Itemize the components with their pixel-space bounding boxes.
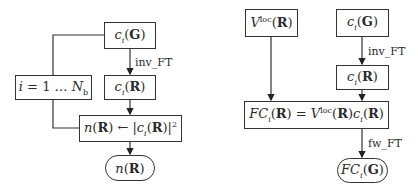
density-label: n(R) ← |ci(R)|2 [84,120,177,138]
box-ci-r-right: ci(R) [336,65,389,90]
ci-g-label-right: ci(G) [347,14,378,32]
box-ci-g-right: ci(G) [336,9,389,37]
terminal-fc-output: FCi(G) [337,158,388,183]
box-loop-index: i = 1 … Nb [15,75,92,100]
vloc-label: Vloc(R) [250,15,292,30]
ci-r-label-right: ci(R) [347,69,378,87]
density-output-label: n(R) [115,161,144,176]
edge-label-fw-ft: fw_FT [368,137,402,150]
box-ci-r-left: ci(R) [104,75,156,100]
ci-g-label: ci(G) [114,27,145,45]
box-density-update: n(R) ← |ci(R)|2 [79,115,182,142]
terminal-density-output: n(R) [105,155,155,181]
box-product: FCi(R) = Vloc(R)ci(R) [244,101,389,129]
box-ci-g-left: ci(G) [104,22,156,49]
fc-output-label: FCi(G) [341,162,384,180]
box-vloc: Vloc(R) [245,9,298,37]
loop-label: i = 1 … Nb [19,79,88,97]
edge-label-inv-ft-left: inv_FT [135,56,172,69]
edge-label-inv-ft-right: inv_FT [368,45,405,58]
ci-r-label: ci(R) [115,79,146,97]
product-label: FCi(R) = Vloc(R)ci(R) [249,106,384,124]
